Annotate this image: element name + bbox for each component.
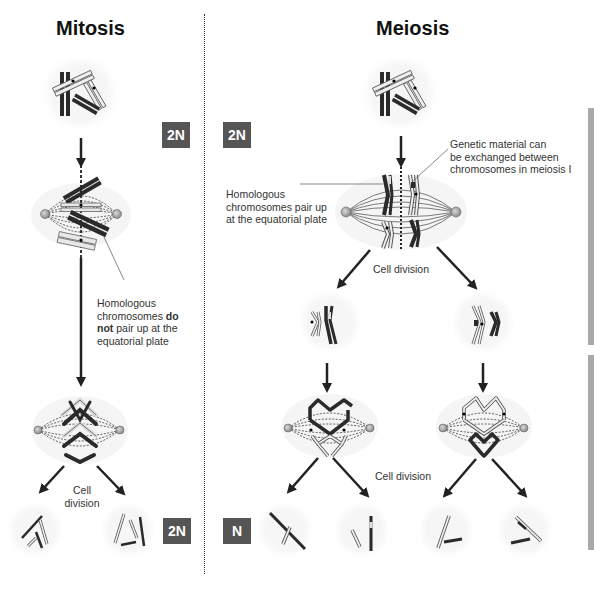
mitosis-annotation-pointer <box>104 237 124 280</box>
meiosis-gamete-4 <box>497 502 553 558</box>
mitosis-no-pairing-annotation: Homologous chromosomes do not pair up at… <box>97 297 179 347</box>
meiosis-gamete-3 <box>418 502 474 558</box>
mitosis-division-arrow-right <box>97 466 122 492</box>
mitosis-daughter-cell-right <box>100 502 156 558</box>
mitosis-anaphase-cell <box>32 396 128 464</box>
meiosis-secondary-cell-right <box>451 290 515 354</box>
meiosis-secondary-cell-left <box>298 290 362 354</box>
meiosis-pairing-annotation: Homologous chromosomes pair up at the eq… <box>226 188 327 226</box>
meiosis-1-arrow-right <box>437 247 474 286</box>
meiosis-2-division-arrow-2 <box>333 458 366 494</box>
meiosis-exchange-annotation: Genetic material can be exchanged betwee… <box>450 138 571 176</box>
meiosis-interphase-cell <box>362 55 438 131</box>
meiosis-anaphase-2-cell-right <box>436 394 532 458</box>
mitosis-cell-division-label: Cell division <box>64 484 100 509</box>
mitosis-daughter-cell-left <box>7 502 63 558</box>
meiosis-gamete-1 <box>257 502 313 558</box>
meiosis-cell-division-label-1: Cell division <box>373 263 429 276</box>
meiosis-exchange-pointer <box>412 149 448 182</box>
meiosis-1-arrow-left <box>340 250 370 285</box>
mitosis-interphase-cell <box>42 55 118 131</box>
meiosis-2-division-arrow-1 <box>290 458 318 490</box>
mitosis-division-arrow-left <box>42 466 64 490</box>
meiosis-2-division-arrow-4 <box>492 459 524 494</box>
meiosis-cell-division-label-2: Cell division <box>375 470 431 483</box>
meiosis-anaphase-2-cell-left <box>282 394 378 458</box>
meiosis-metaphase-1-cell <box>335 167 467 250</box>
mitosis-metaphase-cell <box>31 165 131 262</box>
meiosis-2-division-arrow-3 <box>446 459 476 494</box>
meiosis-gamete-2 <box>334 502 390 558</box>
